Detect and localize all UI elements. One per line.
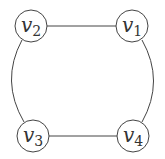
graph-diagram: v2 v1 v3 v4 [0, 0, 165, 159]
node-v3: v3 [17, 120, 49, 152]
edge-v2-v3 [11, 40, 24, 122]
node-v4: v4 [117, 120, 149, 152]
node-v2: v2 [15, 10, 47, 42]
node-v1: v1 [116, 10, 148, 42]
edge-v1-v4 [142, 40, 154, 122]
